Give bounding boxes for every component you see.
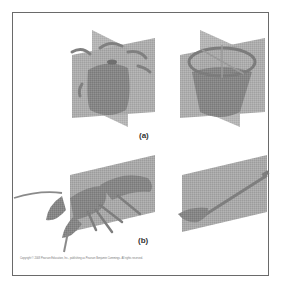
- anemone-body: [87, 63, 129, 115]
- flower-pot-figure: [180, 30, 265, 127]
- symmetry-illustration: [0, 0, 288, 289]
- panel-label-b: (b): [138, 236, 148, 245]
- sea-anemone-figure: [72, 30, 155, 127]
- lobster-claw-upper: [46, 196, 66, 220]
- lobster-figure: [14, 155, 155, 252]
- anemone-mouth: [107, 60, 117, 65]
- copyright-notice: Copyright © 2008 Pearson Education, Inc.…: [20, 257, 143, 260]
- panel-label-a: (a): [139, 131, 149, 140]
- shovel-figure: [178, 155, 269, 232]
- lobster-antenna: [14, 192, 62, 198]
